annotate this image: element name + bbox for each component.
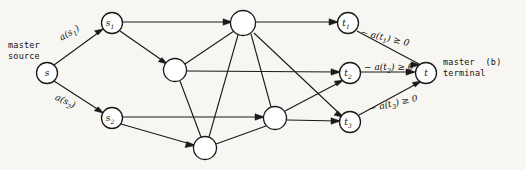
master-source-line1: master — [8, 40, 40, 50]
edge-s1-to-m1 — [120, 31, 166, 63]
node-s2[interactable]: s2 — [102, 108, 123, 129]
node-s[interactable]: s — [37, 63, 58, 84]
edge-label-capacity-t2: − a(t2) ≥ 0 — [364, 62, 414, 75]
edge-m1-to-t2 — [187, 71, 339, 72]
node-t[interactable]: t — [416, 63, 437, 84]
node-s-label: s — [45, 68, 50, 78]
edge-m1-to-m2 — [185, 31, 234, 64]
master-terminal-caption: master (b) terminal — [443, 57, 502, 79]
node-interior-2[interactable] — [231, 11, 256, 36]
edge-label-capacity-t2-head: − a(t — [364, 62, 387, 72]
master-source-line2: source — [8, 51, 40, 61]
node-interior-1[interactable] — [164, 59, 187, 82]
edge-m3-to-t2 — [285, 81, 342, 111]
node-t1[interactable]: t1 — [338, 13, 359, 34]
edge-m4-to-m3 — [216, 126, 266, 144]
edge-m2-to-m3 — [251, 34, 271, 107]
edge-s2-to-m4 — [121, 124, 194, 145]
master-terminal-line1: master — [443, 57, 475, 67]
node-t2[interactable]: t2 — [340, 63, 361, 84]
edge-label-capacity-t2-tail: ) ≥ 0 — [391, 62, 414, 72]
node-interior-3[interactable] — [264, 107, 287, 130]
edge-m1-to-m4 — [180, 81, 201, 137]
master-source-caption: master source — [8, 40, 40, 62]
node-t-label: t — [424, 68, 428, 78]
edge-m2-to-m4 — [209, 35, 238, 137]
diagram-canvas: s s1 s2 — [0, 0, 526, 170]
network-flow-diagram: s s1 s2 — [0, 0, 526, 170]
node-s1[interactable]: s1 — [102, 13, 123, 34]
master-terminal-line2: terminal — [443, 68, 486, 78]
node-interior-4[interactable] — [194, 137, 217, 160]
panel-label: (b) — [486, 57, 502, 67]
node-t3[interactable]: t3 — [340, 112, 361, 133]
